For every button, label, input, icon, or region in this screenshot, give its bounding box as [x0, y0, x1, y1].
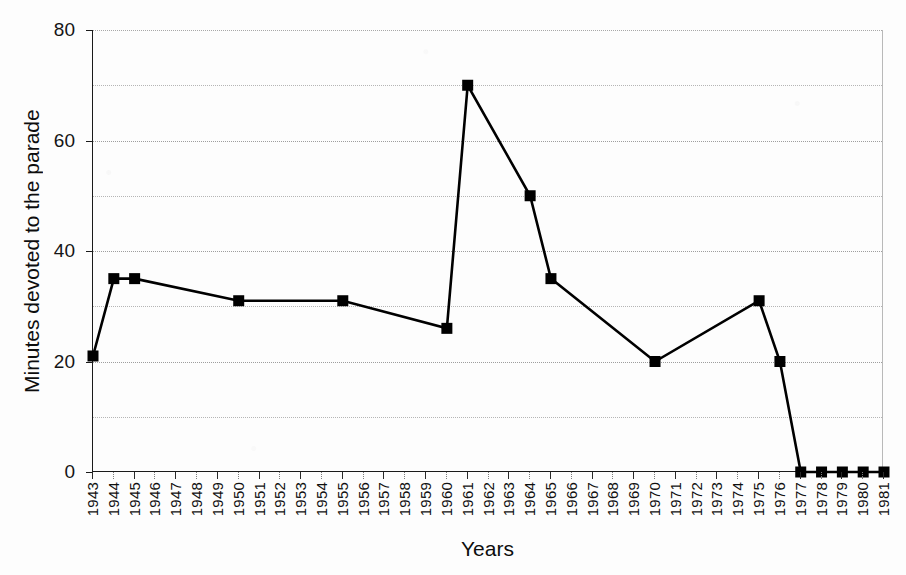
x-tick-label-1975: 1975 — [750, 482, 767, 516]
x-tick-mark-1974 — [737, 472, 738, 479]
x-tick-label-1970: 1970 — [646, 482, 663, 516]
cut-off-title-fragment — [0, 0, 906, 2]
data-point-1961 — [462, 80, 473, 91]
x-tick-label-1968: 1968 — [604, 482, 621, 516]
series-line — [93, 85, 884, 472]
x-tick-mark-1951 — [259, 472, 260, 479]
x-tick-mark-1981 — [883, 472, 884, 479]
data-point-1964 — [525, 190, 536, 201]
x-tick-mark-1978 — [821, 472, 822, 479]
x-tick-label-1959: 1959 — [417, 482, 434, 516]
x-tick-mark-1949 — [217, 472, 218, 479]
x-tick-label-1944: 1944 — [105, 482, 122, 516]
x-tick-label-1948: 1948 — [188, 482, 205, 516]
data-point-1955 — [337, 295, 348, 306]
x-tick-label-1945: 1945 — [126, 482, 143, 516]
x-tick-label-1955: 1955 — [334, 482, 351, 516]
y-tick-mark-40 — [86, 251, 93, 252]
x-tick-label-1964: 1964 — [521, 482, 538, 516]
x-tick-mark-1977 — [800, 472, 801, 479]
data-point-1965 — [545, 273, 556, 284]
x-tick-label-1962: 1962 — [480, 482, 497, 516]
data-point-1975 — [754, 295, 765, 306]
x-tick-mark-1980 — [862, 472, 863, 479]
x-tick-mark-1972 — [696, 472, 697, 479]
x-tick-label-1979: 1979 — [833, 482, 850, 516]
x-tick-mark-1960 — [446, 472, 447, 479]
x-tick-label-1965: 1965 — [542, 482, 559, 516]
data-point-1943 — [88, 350, 99, 361]
x-tick-mark-1957 — [383, 472, 384, 479]
x-tick-label-1953: 1953 — [292, 482, 309, 516]
x-tick-label-1981: 1981 — [875, 482, 892, 516]
x-tick-mark-1964 — [529, 472, 530, 479]
y-tick-mark-80 — [86, 30, 93, 31]
x-tick-mark-1953 — [300, 472, 301, 479]
data-point-1960 — [441, 323, 452, 334]
x-tick-label-1969: 1969 — [625, 482, 642, 516]
x-tick-label-1973: 1973 — [708, 482, 725, 516]
x-tick-mark-1956 — [363, 472, 364, 479]
data-point-1945 — [129, 273, 140, 284]
x-tick-label-1976: 1976 — [771, 482, 788, 516]
x-tick-label-1966: 1966 — [563, 482, 580, 516]
x-tick-label-1943: 1943 — [84, 482, 101, 516]
x-tick-mark-1945 — [134, 472, 135, 479]
data-series — [93, 30, 884, 472]
x-tick-mark-1952 — [279, 472, 280, 479]
x-tick-mark-1971 — [675, 472, 676, 479]
data-point-1944 — [108, 273, 119, 284]
x-tick-mark-1959 — [425, 472, 426, 479]
x-tick-label-1947: 1947 — [167, 482, 184, 516]
x-tick-mark-1966 — [571, 472, 572, 479]
x-tick-mark-1979 — [841, 472, 842, 479]
x-tick-label-1961: 1961 — [459, 482, 476, 516]
x-tick-label-1950: 1950 — [230, 482, 247, 516]
chart-screenshot: Minutes devoted to the parade Years 0204… — [0, 0, 906, 575]
x-tick-mark-1963 — [508, 472, 509, 479]
x-tick-mark-1969 — [633, 472, 634, 479]
x-tick-mark-1947 — [175, 472, 176, 479]
x-tick-mark-1965 — [550, 472, 551, 479]
x-tick-label-1980: 1980 — [854, 482, 871, 516]
x-tick-label-1956: 1956 — [355, 482, 372, 516]
y-tick-label-40: 40 — [15, 240, 75, 262]
x-tick-mark-1943 — [92, 472, 93, 479]
y-tick-mark-60 — [86, 141, 93, 142]
data-point-1976 — [774, 356, 785, 367]
x-tick-mark-1955 — [342, 472, 343, 479]
data-point-1950 — [233, 295, 244, 306]
series-markers — [88, 80, 890, 478]
x-tick-mark-1950 — [238, 472, 239, 479]
x-tick-label-1954: 1954 — [313, 482, 330, 516]
x-tick-label-1967: 1967 — [584, 482, 601, 516]
x-tick-mark-1975 — [758, 472, 759, 479]
x-tick-mark-1973 — [716, 472, 717, 479]
x-tick-mark-1946 — [154, 472, 155, 479]
x-tick-label-1958: 1958 — [396, 482, 413, 516]
x-tick-mark-1976 — [779, 472, 780, 479]
x-tick-mark-1944 — [113, 472, 114, 479]
x-tick-label-1946: 1946 — [146, 482, 163, 516]
x-tick-label-1974: 1974 — [729, 482, 746, 516]
x-axis: 1943194419451946194719481949195019511952… — [92, 472, 883, 542]
x-tick-mark-1958 — [404, 472, 405, 479]
x-tick-mark-1962 — [488, 472, 489, 479]
data-point-1970 — [650, 356, 661, 367]
x-tick-mark-1948 — [196, 472, 197, 479]
x-tick-label-1957: 1957 — [375, 482, 392, 516]
y-tick-label-0: 0 — [15, 461, 75, 483]
y-tick-label-80: 80 — [15, 19, 75, 41]
x-tick-label-1951: 1951 — [251, 482, 268, 516]
x-tick-mark-1961 — [467, 472, 468, 479]
plot-area: 020406080 — [92, 30, 883, 472]
x-tick-mark-1970 — [654, 472, 655, 479]
y-tick-label-60: 60 — [15, 130, 75, 152]
x-tick-label-1971: 1971 — [667, 482, 684, 516]
x-tick-mark-1967 — [592, 472, 593, 479]
x-tick-label-1977: 1977 — [792, 482, 809, 516]
x-tick-label-1963: 1963 — [500, 482, 517, 516]
x-tick-label-1960: 1960 — [438, 482, 455, 516]
x-tick-label-1978: 1978 — [813, 482, 830, 516]
y-tick-mark-20 — [86, 362, 93, 363]
